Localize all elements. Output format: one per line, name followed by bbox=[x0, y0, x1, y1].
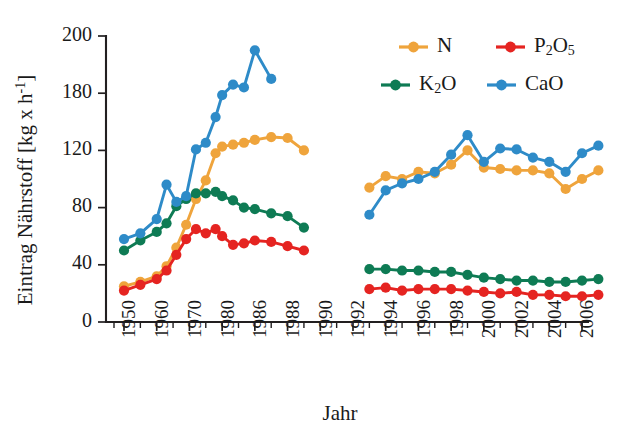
data-point bbox=[495, 274, 505, 284]
data-point bbox=[446, 267, 456, 277]
data-point bbox=[266, 132, 276, 142]
data-point bbox=[413, 284, 423, 294]
data-point bbox=[397, 265, 407, 275]
data-point bbox=[561, 277, 571, 287]
legend-swatch-marker-cao bbox=[496, 80, 507, 91]
data-point bbox=[266, 208, 276, 218]
data-point bbox=[282, 133, 292, 143]
data-point bbox=[544, 277, 554, 287]
x-tick-label-2000: 2000 bbox=[478, 300, 499, 338]
y-tick-label-120: 120 bbox=[62, 137, 92, 159]
data-point bbox=[191, 144, 201, 154]
data-point bbox=[171, 250, 181, 260]
data-point bbox=[201, 138, 211, 148]
data-point bbox=[364, 264, 374, 274]
chart-figure: Eintrag Nährstoff [kg x h-1] Jahr 040801… bbox=[0, 0, 622, 432]
data-point bbox=[228, 240, 238, 250]
data-point bbox=[181, 220, 191, 230]
data-point bbox=[430, 284, 440, 294]
x-tick-label-1960: 1960 bbox=[151, 300, 172, 338]
data-point bbox=[446, 284, 456, 294]
series-k2o bbox=[119, 187, 604, 287]
data-point bbox=[462, 270, 472, 280]
data-point bbox=[135, 280, 145, 290]
data-point bbox=[299, 223, 309, 233]
data-point bbox=[181, 234, 191, 244]
svg-text:Eintrag Nährstoff [kg x h-1]: Eintrag Nährstoff [kg x h-1] bbox=[13, 75, 37, 306]
data-point bbox=[462, 285, 472, 295]
data-point bbox=[511, 275, 521, 285]
data-point bbox=[561, 167, 571, 177]
data-point bbox=[495, 288, 505, 298]
data-point bbox=[191, 188, 201, 198]
data-point bbox=[528, 165, 538, 175]
data-point bbox=[528, 290, 538, 300]
x-tick-label-2004: 2004 bbox=[544, 300, 565, 339]
data-point bbox=[152, 227, 162, 237]
data-point bbox=[479, 157, 489, 167]
data-point bbox=[528, 275, 538, 285]
data-point bbox=[381, 264, 391, 274]
data-point bbox=[161, 218, 171, 228]
x-tick-label-1996: 1996 bbox=[413, 300, 434, 338]
data-point bbox=[239, 138, 249, 148]
data-point bbox=[577, 275, 587, 285]
y-axis-title: Eintrag Nährstoff [kg x h-1] bbox=[13, 75, 37, 306]
data-point bbox=[119, 245, 129, 255]
data-point bbox=[446, 150, 456, 160]
y-tick-label-80: 80 bbox=[72, 194, 92, 216]
x-tick-label-1980: 1980 bbox=[217, 300, 238, 338]
data-point bbox=[364, 182, 374, 192]
data-point bbox=[211, 112, 221, 122]
data-point bbox=[413, 174, 423, 184]
data-point bbox=[593, 274, 603, 284]
data-point bbox=[511, 165, 521, 175]
data-point bbox=[561, 291, 571, 301]
x-tick-label-2002: 2002 bbox=[511, 300, 532, 338]
data-point bbox=[495, 164, 505, 174]
x-tick-label-1998: 1998 bbox=[446, 300, 467, 338]
data-point bbox=[544, 168, 554, 178]
data-point bbox=[171, 197, 181, 207]
data-point bbox=[544, 290, 554, 300]
legend-swatch-marker-p2o5 bbox=[505, 42, 516, 53]
legend-item-cao[interactable]: CaO bbox=[487, 71, 564, 95]
data-point bbox=[250, 45, 260, 55]
data-point bbox=[282, 241, 292, 251]
data-point bbox=[266, 74, 276, 84]
series-line-k2o bbox=[124, 192, 304, 251]
data-point bbox=[161, 180, 171, 190]
y-tick-label-200: 200 bbox=[62, 23, 92, 45]
data-point bbox=[561, 184, 571, 194]
data-point bbox=[511, 144, 521, 154]
x-tick-label-1988: 1988 bbox=[282, 300, 303, 338]
series-line-p2o5 bbox=[124, 229, 304, 290]
legend-item-n[interactable]: N bbox=[399, 33, 452, 57]
legend-item-p2o5[interactable]: P2O5 bbox=[496, 33, 575, 58]
x-tick-label-1990: 1990 bbox=[315, 300, 336, 338]
data-point bbox=[217, 141, 227, 151]
data-point bbox=[364, 284, 374, 294]
chart-legend: N P2O5 K2O CaO bbox=[381, 33, 575, 96]
data-point bbox=[479, 287, 489, 297]
x-tick-label-1994: 1994 bbox=[380, 300, 401, 339]
x-tick-label-1950: 1950 bbox=[118, 300, 139, 338]
legend-item-k2o[interactable]: K2O bbox=[381, 71, 456, 96]
data-point bbox=[201, 188, 211, 198]
data-point bbox=[250, 235, 260, 245]
data-point bbox=[152, 214, 162, 224]
y-axis-title-text: Eintrag Nährstoff [kg x h bbox=[13, 93, 37, 305]
x-axis-ticks: 1950196019701980198619881990199219941996… bbox=[114, 300, 597, 339]
data-point bbox=[239, 82, 249, 92]
data-point bbox=[161, 265, 171, 275]
data-point bbox=[381, 185, 391, 195]
data-point bbox=[462, 130, 472, 140]
data-point bbox=[593, 141, 603, 151]
data-point bbox=[152, 274, 162, 284]
data-point bbox=[217, 90, 227, 100]
data-point bbox=[228, 140, 238, 150]
data-point bbox=[250, 204, 260, 214]
data-point bbox=[413, 265, 423, 275]
data-point bbox=[430, 267, 440, 277]
y-axis-ticks: 04080120180200 bbox=[62, 23, 106, 331]
